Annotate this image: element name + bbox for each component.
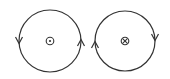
out-of-page-dot-icon bbox=[46, 37, 54, 45]
circulation-diagram bbox=[0, 0, 170, 79]
into-page-cross-icon bbox=[121, 37, 129, 45]
diagram-canvas bbox=[0, 0, 170, 79]
right-loop bbox=[92, 11, 159, 71]
left-loop bbox=[16, 10, 85, 72]
